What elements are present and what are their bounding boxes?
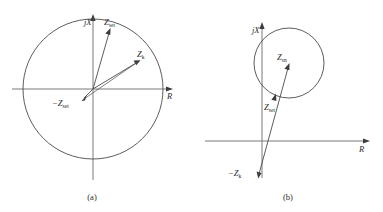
panel-a-chord-negzset-to-zk [83, 63, 138, 101]
panel-a-imag-axis-label: jX [83, 17, 92, 27]
panel-a-label-z-k: Zk [137, 49, 145, 60]
panel-a-group: jX R Zset Zk −Zset (a) [12, 14, 173, 202]
figure-container: jX R Zset Zk −Zset (a) [0, 0, 383, 212]
panel-b-vector-z-sn-arrow-icon [284, 63, 289, 70]
panel-b-real-axis-label: R [358, 144, 365, 154]
panel-a-label-z-set: Zset [104, 17, 115, 28]
panel-b-group: jX R Zsn Zset −Zk (b) [205, 22, 370, 202]
panel-a-caption: (a) [87, 192, 97, 202]
panel-b-label-z-sn: Zsn [277, 52, 287, 63]
panel-b-label-z-set: Zset [264, 102, 275, 113]
panel-b-imag-axis-label: jX [251, 25, 260, 35]
panel-b-imag-axis-arrow-icon [259, 22, 264, 29]
panel-a-label-neg-z-set: −Zset [52, 98, 69, 109]
panel-b-caption: (b) [283, 192, 293, 202]
panel-b-vector-z-sn [259, 68, 288, 174]
panel-b-characteristic-circle [254, 28, 324, 98]
panel-b-real-axis-arrow-icon [363, 138, 370, 143]
panel-a-real-axis-label: R [166, 91, 173, 101]
panel-a-vector-z-set-arrow-icon [105, 28, 110, 35]
panel-b-label-neg-z-k: −Zk [228, 168, 241, 179]
impedance-diagram-svg: jX R Zset Zk −Zset (a) [0, 0, 383, 212]
panel-b-vector-neg-z-k-arrow-icon [257, 172, 262, 179]
